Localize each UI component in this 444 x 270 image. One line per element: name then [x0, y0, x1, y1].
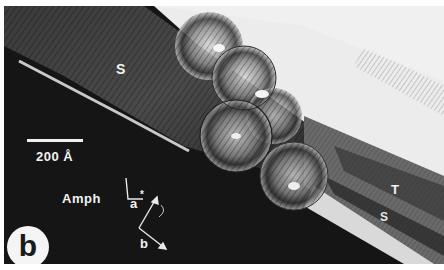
axis-label-a-star: * — [140, 189, 144, 200]
phase-label-s-lower: S — [380, 210, 389, 224]
axis-label-b: b — [140, 236, 148, 251]
phase-label-s-upper: S — [116, 61, 126, 77]
panel-label-badge: b — [7, 226, 49, 264]
phase-label-amph: Amph — [62, 191, 101, 206]
scale-bar-label: 200 Å — [36, 149, 73, 164]
micrograph-frame: S T S Amph 200 Å a * b b — [4, 6, 444, 264]
axis-label-a: a — [130, 196, 138, 211]
phase-label-t: T — [391, 182, 399, 197]
micrograph-image — [4, 6, 444, 264]
scale-bar — [27, 139, 83, 142]
panel-label: b — [19, 229, 37, 263]
